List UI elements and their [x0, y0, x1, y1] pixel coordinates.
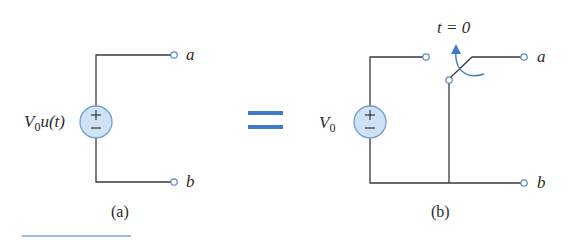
- source-label-b: V0: [319, 114, 335, 134]
- switch-motion-arrow-icon: [456, 52, 484, 76]
- wire-a-top: [96, 55, 171, 106]
- switch-time-label: t = 0: [437, 19, 470, 36]
- circuit-a: [22, 52, 177, 236]
- circuit-b: [354, 44, 527, 186]
- wire-a-bottom: [96, 138, 171, 182]
- circuit-diagram: [0, 0, 570, 243]
- switch-arm: [451, 57, 521, 77]
- switch-open-contact-icon: [423, 54, 429, 60]
- source-label-a: V0u(t): [24, 113, 65, 133]
- wire-b-top: [370, 57, 423, 106]
- wire-b-bottom: [370, 138, 521, 183]
- arrowhead-icon: [451, 44, 461, 54]
- equals-sign-icon: [248, 111, 283, 129]
- terminal-a-icon: [521, 54, 527, 60]
- terminal-a-label: a: [537, 48, 546, 65]
- caption-b: (b): [431, 204, 450, 220]
- terminal-b-icon: [521, 180, 527, 186]
- terminal-a-label: a: [186, 46, 195, 63]
- terminal-b-label: b: [537, 174, 546, 191]
- terminal-b-icon: [171, 179, 177, 185]
- caption-a: (a): [111, 204, 129, 220]
- switch-pivot-icon: [446, 77, 452, 83]
- terminal-a-icon: [171, 52, 177, 58]
- terminal-b-label: b: [186, 173, 195, 190]
